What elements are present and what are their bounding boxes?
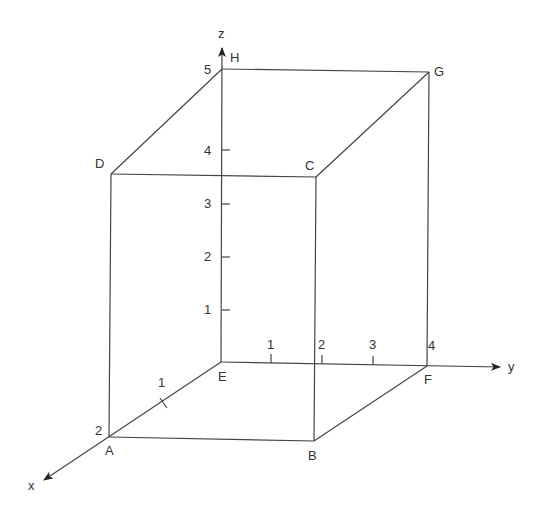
y-tick-1: 1 bbox=[267, 337, 274, 352]
x-axis bbox=[44, 362, 221, 480]
z-axis-label: z bbox=[218, 26, 225, 41]
vertex-label-b: B bbox=[308, 448, 317, 463]
cuboid-diagram: z y x 1 2 3 4 5 1 2 3 4 1 2 A B C D E F … bbox=[0, 0, 543, 519]
y-tick-4: 4 bbox=[428, 338, 435, 353]
z-tick-2: 2 bbox=[204, 249, 211, 264]
vertex-label-a: A bbox=[105, 443, 114, 458]
tick-marks bbox=[160, 150, 373, 408]
y-tick-3: 3 bbox=[369, 337, 376, 352]
vertex-label-h: H bbox=[230, 50, 239, 65]
vertex-label-g: G bbox=[434, 64, 444, 79]
z-tick-4: 4 bbox=[204, 143, 211, 158]
z-tick-5: 5 bbox=[204, 62, 211, 77]
box-edges bbox=[109, 69, 429, 441]
y-axis bbox=[221, 362, 500, 367]
axes bbox=[44, 48, 500, 480]
z-axis bbox=[221, 48, 222, 362]
vertex-label-d: D bbox=[95, 156, 104, 171]
x-tick-2: 2 bbox=[95, 423, 102, 438]
x-axis-label: x bbox=[28, 478, 35, 493]
vertex-label-c: C bbox=[305, 158, 314, 173]
vertex-label-e: E bbox=[218, 369, 227, 384]
x-tick-1: 1 bbox=[158, 375, 165, 390]
vertex-label-f: F bbox=[424, 372, 432, 387]
y-tick-2: 2 bbox=[318, 337, 325, 352]
z-tick-3: 3 bbox=[204, 196, 211, 211]
y-axis-label: y bbox=[508, 359, 515, 374]
z-tick-1: 1 bbox=[204, 302, 211, 317]
